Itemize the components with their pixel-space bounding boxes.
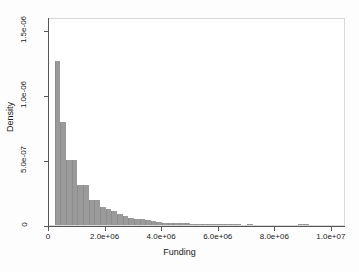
x-axis-tick [331,227,332,231]
plot-area [48,18,345,226]
histogram-bar [321,225,327,226]
y-axis-tick-label: 5.0e-07 [6,155,42,164]
y-axis-tick [44,161,48,162]
x-axis-tick [48,227,49,231]
y-axis-tick [44,226,48,227]
x-axis-tick-label: 8.0e+06 [260,232,289,241]
x-axis-title: Funding [0,247,359,257]
x-axis-tick [274,227,275,231]
x-axis-tick-label: 0 [46,232,50,241]
x-axis-tick-label: 2.0e+06 [90,232,119,241]
x-axis-tick [105,227,106,231]
y-axis-line [48,18,49,226]
histogram-bar [270,225,276,226]
x-axis-tick-label: 1.0e+07 [316,232,345,241]
histogram-bar [258,225,264,226]
y-axis-tick-label: 1.0e-06 [6,90,42,99]
histogram-bar [247,224,253,225]
y-axis-title: Density [0,112,50,122]
x-axis-line [48,226,345,227]
histogram-bars [49,19,344,225]
y-axis-tick-label: 1.5e-06 [6,25,42,34]
y-axis-title-text: Density [5,102,15,132]
histogram-bar [332,225,338,226]
y-axis-tick [44,31,48,32]
y-axis-tick-label-text: 1.5e-06 [19,16,28,43]
x-axis-tick-label: 4.0e+06 [147,232,176,241]
y-axis-tick-label-text: 1.0e-06 [19,81,28,108]
histogram-bar [304,224,310,225]
y-axis-tick-label-text: 0 [19,222,28,226]
x-axis-tick [218,227,219,231]
y-axis-tick [44,96,48,97]
histogram-bar [281,225,287,226]
x-axis-tick [161,227,162,231]
x-axis-tick-label: 6.0e+06 [203,232,232,241]
y-axis-tick-label-text: 5.0e-07 [19,146,28,173]
histogram-figure: 02.0e+064.0e+066.0e+068.0e+061.0e+07 05.… [0,0,359,272]
y-axis-tick-label: 0 [6,220,42,229]
